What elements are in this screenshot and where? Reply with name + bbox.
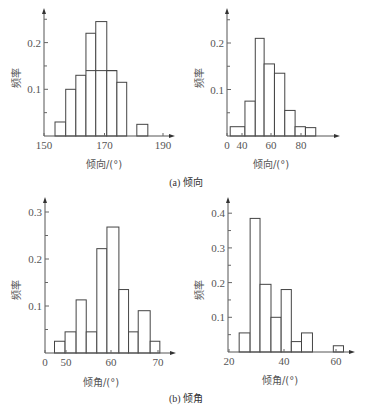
x-tick-label: 60 (331, 355, 343, 367)
x-tick-label: 40 (237, 139, 249, 151)
histogram-bar (264, 64, 274, 136)
x-axis-label: 倾角/(°) (83, 376, 119, 388)
histogram-bar (137, 124, 148, 136)
histogram-bar (285, 110, 295, 136)
y-tick-label: 0.1 (28, 300, 42, 312)
y-axis-label: 频率 (193, 68, 205, 88)
histogram-bar (230, 127, 245, 136)
chart-b-right: 0.10.20.30.4204060倾角/(°)频率 (193, 197, 355, 386)
x-axis-arrow-icon (169, 134, 175, 138)
y-axis-arrow-icon (226, 197, 230, 203)
y-tick-label: 0.2 (28, 253, 42, 265)
y-axis-arrow-icon (43, 197, 47, 203)
y-tick-label: 0.3 (211, 242, 225, 254)
histogram-bar (305, 128, 315, 136)
x-axis-label: 倾向/(°) (253, 158, 289, 170)
histogram-bar (76, 75, 86, 136)
histogram-bar (86, 332, 97, 353)
x-tick-label: 80 (296, 139, 308, 151)
y-tick-label: 0.1 (27, 83, 41, 95)
histogram-bar (138, 311, 150, 353)
y-tick-label: 0.2 (27, 37, 41, 49)
x-tick-label: 170 (96, 139, 113, 151)
histogram-bar (65, 332, 76, 353)
y-tick-label: 0.2 (211, 277, 225, 289)
x-axis-label: 倾向/(°) (86, 158, 122, 170)
histogram-bar (55, 122, 66, 136)
histogram-bar (129, 332, 139, 353)
histogram-bar (97, 249, 107, 353)
x-tick-label: 0 (224, 139, 230, 151)
x-tick-label: 40 (279, 355, 291, 367)
y-tick-label: 0.4 (211, 207, 225, 219)
chart-b-left: 0.10.20.30506070倾角/(°)频率 (10, 197, 176, 388)
x-axis-label: 倾角/(°) (262, 374, 298, 386)
panel-caption-b: (b) 倾角 (169, 392, 203, 405)
y-axis-label: 频率 (10, 280, 22, 300)
x-tick-label: 60 (266, 139, 278, 151)
x-tick-label: 190 (155, 139, 172, 151)
chart-a-left: 0.10.2150170190倾向/(°)频率 (10, 8, 175, 170)
x-tick-label: 20 (224, 355, 236, 367)
y-tick-label: 0.1 (210, 84, 224, 96)
histogram-bar (55, 341, 66, 353)
histogram-bar (301, 333, 312, 352)
histogram-bar (96, 22, 107, 136)
panel-caption-a: (a) 倾向 (169, 176, 203, 189)
histogram-bar (245, 101, 255, 136)
histogram-bar (117, 82, 127, 136)
x-tick-label: 50 (61, 356, 73, 368)
histogram-bar (76, 300, 86, 353)
histogram-bar (255, 38, 264, 136)
x-tick-label: 60 (106, 356, 118, 368)
histogram-bar (119, 290, 129, 353)
histogram-bar (295, 127, 305, 136)
histogram-bar (271, 317, 281, 352)
histogram-bar (333, 346, 343, 352)
histogram-bar (66, 89, 76, 136)
histogram-bar (107, 227, 119, 353)
histogram-bar (250, 218, 260, 352)
y-tick-label: 0.3 (28, 206, 42, 218)
y-axis-arrow-icon (225, 8, 229, 14)
x-axis-arrow-icon (170, 351, 176, 355)
x-axis-arrow-icon (334, 134, 340, 138)
chart-a-right: 0.10.20406080倾向/(°)频率 (193, 8, 340, 170)
histogram-bar (239, 333, 250, 352)
y-axis-label: 频率 (10, 68, 22, 88)
y-axis-arrow-icon (42, 8, 46, 14)
x-axis-arrow-icon (349, 350, 355, 354)
y-tick-label: 0.1 (211, 311, 225, 323)
histogram-bar (274, 73, 284, 136)
histogram-bar (260, 284, 271, 352)
x-tick-label: 70 (153, 356, 165, 368)
x-tick-label: 150 (36, 139, 53, 151)
histogram-bar (107, 71, 117, 136)
x-tick-label: 0 (42, 356, 48, 368)
histogram-bar (281, 290, 291, 352)
histogram-figure: 0.10.2150170190倾向/(°)频率0.10.20406080倾向/(… (0, 0, 371, 412)
y-tick-label: 0.2 (210, 37, 224, 49)
y-axis-label: 频率 (193, 280, 205, 300)
histogram-bar (291, 342, 301, 352)
histogram-bar (86, 33, 96, 136)
